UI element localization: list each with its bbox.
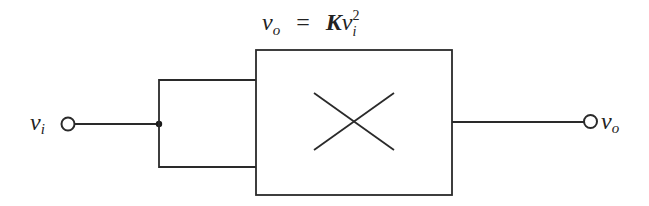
- input-terminal-icon: [62, 118, 75, 131]
- input-label: vi: [30, 109, 45, 137]
- branch-wires: [159, 80, 256, 167]
- output-var: v: [601, 108, 612, 134]
- eq-rhs-sup: 2: [352, 8, 359, 23]
- multiplier-squarer-diagram: vo = Kv2i vi vo: [0, 0, 649, 206]
- eq-lhs-var: v: [262, 9, 273, 35]
- output-terminal-icon: [584, 115, 597, 128]
- eq-rhs-var: v: [342, 9, 353, 35]
- branch-wire: [159, 80, 256, 167]
- input-sub: i: [41, 121, 45, 137]
- output-sub: o: [612, 120, 620, 136]
- equation-label: vo = Kv2i: [262, 8, 359, 40]
- svg-text:vo = Kv2i: vo = Kv2i: [262, 8, 359, 40]
- eq-equals: =: [296, 9, 310, 35]
- eq-lhs-sub: o: [273, 22, 281, 38]
- output-label: vo: [601, 108, 620, 136]
- eq-rhs-sub: i: [352, 24, 356, 39]
- input-var: v: [30, 109, 41, 135]
